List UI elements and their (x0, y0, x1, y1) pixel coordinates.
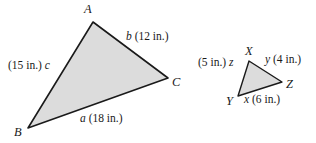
side-x-variable: x (244, 93, 249, 105)
triangle-xyz-shape (238, 61, 282, 96)
similar-triangles-figure: A B C (15 in.) c b (12 in.) a (18 in.) X… (0, 0, 316, 143)
figure-canvas (0, 0, 316, 143)
side-z-variable: z (229, 56, 233, 68)
side-z-measure: (5 in.) (198, 56, 226, 68)
side-label-y: y (4 in.) (265, 54, 301, 66)
side-y-measure: (4 in.) (273, 53, 301, 65)
side-label-z: (5 in.) z (198, 57, 233, 69)
side-c-variable: c (45, 59, 50, 71)
vertex-label-a: A (84, 3, 92, 16)
side-a-measure: (18 in.) (89, 112, 123, 124)
side-x-measure: (6 in.) (252, 93, 280, 105)
side-label-b: b (12 in.) (126, 31, 168, 43)
vertex-label-c: C (172, 76, 180, 89)
side-y-variable: y (265, 53, 270, 65)
side-a-variable: a (80, 112, 86, 124)
side-label-x: x (6 in.) (244, 94, 280, 106)
vertex-label-b: B (14, 126, 22, 139)
vertex-label-z: Z (286, 78, 293, 91)
vertex-label-y: Y (226, 95, 233, 108)
side-label-c: (15 in.) c (8, 60, 50, 72)
side-c-measure: (15 in.) (8, 59, 42, 71)
vertex-label-x: X (245, 45, 253, 58)
side-b-measure: (12 in.) (135, 30, 169, 42)
side-label-a: a (18 in.) (80, 113, 122, 125)
side-b-variable: b (126, 30, 132, 42)
